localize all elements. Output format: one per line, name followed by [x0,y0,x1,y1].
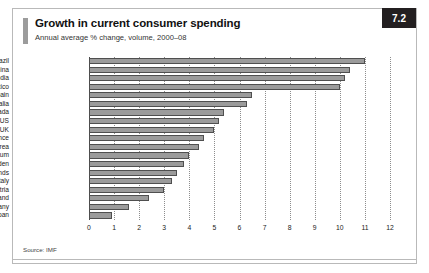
x-tick-label: 6 [238,224,242,231]
bar-row: Austria [89,186,390,195]
bar-row: Sweden [89,160,390,169]
bar [89,161,184,167]
category-label: Spain [0,91,9,100]
bar-row: Spain [89,91,390,100]
bar-row: Netherlands [89,169,390,178]
category-label: Euro area [0,143,9,152]
bar [89,75,345,81]
chart-subtitle: Annual average % change, volume, 2000–08 [35,33,187,42]
bar [89,67,350,73]
x-tick-label: 2 [137,224,141,231]
bar-row: Switzerland [89,194,390,203]
category-label: Germany [0,203,9,212]
bar [89,195,149,201]
bar-rows: BrazilChinaIndiaMexicoSpainAustraliaCana… [89,57,390,220]
category-label: Switzerland [0,194,9,203]
bar [89,178,172,184]
bar-row: Japan [89,211,390,220]
category-label: China [0,66,9,75]
x-tick-label: 5 [213,224,217,231]
bar [89,212,112,218]
chart-figure: Growth in current consumer spending Annu… [12,8,417,264]
bar [89,187,164,193]
bar [89,204,129,210]
category-label: India [0,74,9,83]
bar-row: Canada [89,108,390,117]
x-tick-label: 8 [288,224,292,231]
category-label: Japan [0,211,9,220]
x-tick-label: 0 [87,224,91,231]
category-label: France [0,134,9,143]
bar [89,84,340,90]
category-label: US [0,117,9,126]
gridline [390,57,391,220]
category-label: Italy [0,177,9,186]
bar [89,101,247,107]
x-tick-label: 9 [313,224,317,231]
chart-header: Growth in current consumer spending Annu… [13,9,416,53]
x-tick-label: 10 [336,224,344,231]
x-tick-label: 1 [112,224,116,231]
category-label: UK [0,126,9,135]
bar [89,127,214,133]
bar-row: Brazil [89,57,390,66]
bar-row: Belgium [89,151,390,160]
x-tick-label: 11 [361,224,368,231]
bar-row: Euro area [89,143,390,152]
plot-area: BrazilChinaIndiaMexicoSpainAustraliaCana… [89,57,390,220]
bar [89,170,177,176]
bar-row: US [89,117,390,126]
x-axis-ticks: 0123456789101112 [89,222,390,236]
category-label: Belgium [0,151,9,160]
bar-row: Australia [89,100,390,109]
category-label: Austria [0,186,9,195]
bar [89,109,224,115]
title-accent-bar [23,18,28,44]
category-label: Mexico [0,83,9,92]
bar [89,118,219,124]
bar [89,92,252,98]
page-title: Growth in current consumer spending [35,17,240,29]
bar-row: Germany [89,203,390,212]
x-tick-label: 3 [162,224,166,231]
x-tick-label: 7 [263,224,267,231]
bar [89,135,204,141]
bar-row: Mexico [89,83,390,92]
x-tick-label: 4 [187,224,191,231]
category-label: Brazil [0,57,9,66]
footer-divider [13,259,416,260]
bar-row: Italy [89,177,390,186]
bar [89,58,365,64]
source-note: Source: IMF [23,246,57,253]
x-tick-label: 12 [386,224,394,231]
bar-row: UK [89,126,390,135]
bar-row: France [89,134,390,143]
category-label: Sweden [0,160,9,169]
category-label: Canada [0,108,9,117]
bar-row: India [89,74,390,83]
category-label: Australia [0,100,9,109]
bar-row: China [89,66,390,75]
bar [89,144,199,150]
category-label: Netherlands [0,169,9,178]
chart-number-badge: 7.2 [382,8,416,28]
bar [89,152,189,158]
